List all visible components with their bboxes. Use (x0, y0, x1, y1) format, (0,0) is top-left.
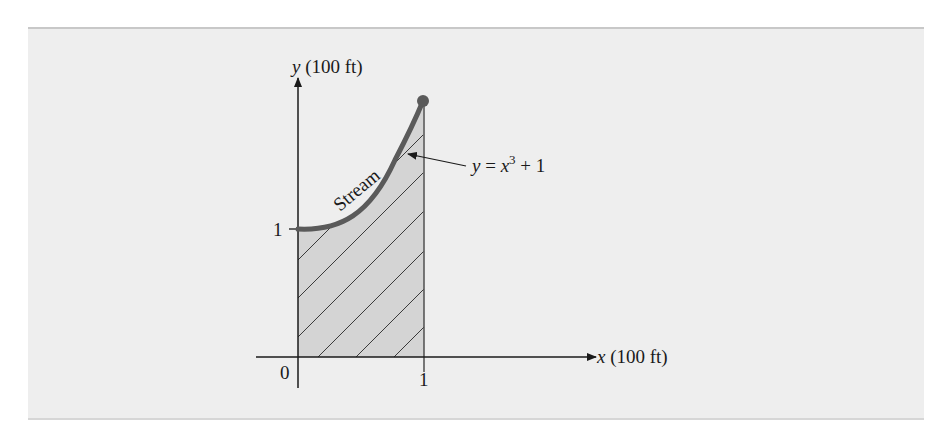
y-axis-label: y (100 ft) (290, 56, 363, 78)
x-tick-label: 1 (419, 369, 429, 390)
origin-label: 0 (280, 362, 290, 383)
stream-area-diagram: y (100 ft) x (100 ft) 0 1 1 Stream y = x… (0, 0, 943, 439)
y-tick-label: 1 (273, 219, 283, 240)
x-axis-label: x (100 ft) (596, 346, 668, 368)
curve-equation: y = x3 + 1 (470, 152, 545, 176)
curve-endpoint-dot (417, 95, 429, 107)
